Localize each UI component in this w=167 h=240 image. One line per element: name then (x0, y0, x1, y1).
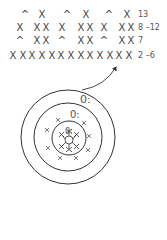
round-label-inner: 0: (65, 127, 73, 137)
round-label-outer: 0: (80, 95, 91, 105)
outer-ring (21, 90, 115, 184)
arrow-icon (82, 67, 116, 90)
round-label-middle: 0: (70, 110, 80, 120)
middle-ring (34, 103, 102, 171)
center-ring (65, 136, 73, 144)
